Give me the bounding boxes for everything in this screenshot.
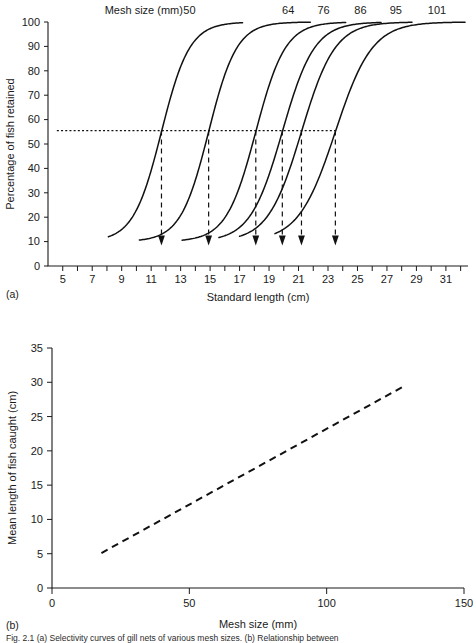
series-label-mesh-64: 64	[282, 4, 294, 16]
panel-a-plot: 0102030405060708090100579111315171921232…	[0, 0, 476, 310]
y-axis-tick-label: 90	[28, 40, 40, 52]
y-axis-tick-label: 5	[37, 548, 43, 560]
series-label-mesh-101: 101	[428, 4, 446, 16]
selectivity-curve	[240, 22, 412, 236]
x-axis-tick-label: 15	[204, 273, 216, 285]
panel-a-axes	[48, 22, 468, 266]
panel-b-plot: 05101520253035050100150Mesh size (mm)Mea…	[0, 300, 476, 640]
y-axis-tick-label: 60	[28, 113, 40, 125]
drop-arrow-mesh-101	[332, 236, 339, 246]
selectivity-curve	[108, 23, 242, 237]
y-axis-tick-label: 40	[28, 162, 40, 174]
x-axis-tick-label: 50	[183, 597, 195, 609]
drop-arrow-mesh-76	[252, 236, 259, 246]
y-axis-tick-label: 0	[34, 260, 40, 272]
panel-b-axes	[52, 348, 464, 588]
y-axis-tick-label: 0	[37, 582, 43, 594]
x-axis-tick-label: 31	[440, 273, 452, 285]
y-axis-tick-label: 25	[31, 411, 43, 423]
series-label-mesh-76: 76	[317, 4, 329, 16]
x-axis-tick-label: 11	[145, 273, 156, 285]
legend-title-mesh-size: Mesh size (mm)	[105, 4, 183, 16]
x-axis-tick-label: 29	[410, 273, 422, 285]
x-axis-tick-label: 100	[317, 597, 335, 609]
y-axis-tick-label: 35	[31, 342, 43, 354]
selectivity-curve	[182, 22, 346, 240]
y-axis-tick-label: 70	[28, 89, 40, 101]
y-axis-tick-label: 80	[28, 65, 40, 77]
panel-label-a: (a)	[6, 288, 19, 300]
y-axis-tick-label: 100	[22, 16, 40, 28]
y-axis-tick-label: 30	[28, 187, 40, 199]
x-axis-tick-label: 19	[263, 273, 275, 285]
x-axis-tick-label: 17	[233, 273, 245, 285]
y-axis-tick-label: 10	[31, 513, 43, 525]
series-label-mesh-95: 95	[390, 4, 402, 16]
y-axis-title: Mean length of fish caught (cm)	[6, 391, 18, 545]
x-axis-tick-label: 150	[455, 597, 473, 609]
mean-length-trend-line	[101, 386, 403, 553]
x-axis-tick-label: 9	[119, 273, 125, 285]
selectivity-curve	[275, 22, 465, 233]
x-axis-tick-label: 7	[89, 273, 95, 285]
x-axis-tick-label: 27	[381, 273, 393, 285]
x-axis-tick-label: 0	[49, 597, 55, 609]
y-axis-tick-label: 20	[28, 211, 40, 223]
x-axis-tick-label: 13	[175, 273, 187, 285]
x-axis-tick-label: 23	[322, 273, 334, 285]
x-axis-tick-label: 5	[60, 273, 66, 285]
panel-label-b: (b)	[6, 619, 19, 631]
series-label-mesh-86: 86	[354, 4, 366, 16]
y-axis-tick-label: 20	[31, 445, 43, 457]
series-label-mesh-50: 50	[183, 4, 195, 16]
y-axis-tick-label: 15	[31, 479, 43, 491]
x-axis-tick-label: 25	[351, 273, 363, 285]
x-axis-tick-label: 21	[292, 273, 304, 285]
drop-arrow-mesh-64	[205, 236, 212, 246]
panel-a-selectivity-curves: 0102030405060708090100579111315171921232…	[0, 0, 476, 310]
drop-arrow-mesh-95	[298, 236, 305, 246]
panel-b-mean-length-plot: 05101520253035050100150Mesh size (mm)Mea…	[0, 300, 476, 640]
x-axis-title: Mesh size (mm)	[219, 618, 297, 630]
selectivity-curve	[219, 22, 381, 237]
y-axis-tick-label: 30	[31, 376, 43, 388]
drop-arrow-mesh-50	[158, 236, 165, 246]
figure-caption: Fig. 2.1 (a) Selectivity curves of gill …	[6, 633, 472, 643]
y-axis-tick-label: 10	[28, 235, 40, 247]
drop-arrow-mesh-86	[279, 236, 286, 246]
y-axis-tick-label: 50	[28, 138, 40, 150]
y-axis-title: Percentage of fish retained	[4, 78, 16, 209]
